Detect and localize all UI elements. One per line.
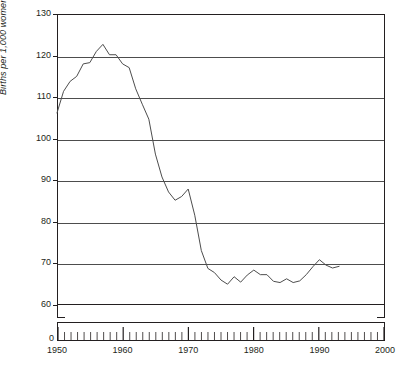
y-axis-tick-label: 60 [41, 300, 51, 309]
x-axis-tick-band [57, 322, 385, 341]
x-axis-tick-label: 1950 [41, 345, 73, 355]
y-axis-tick-label: 70 [41, 258, 51, 267]
y-axis-tick-label: 110 [37, 92, 51, 101]
y-axis-break [57, 305, 385, 319]
x-axis-tick-label: 1990 [303, 345, 335, 355]
x-axis-tick-label: 1980 [238, 345, 270, 355]
series-line-births-per-1000-women [57, 14, 385, 305]
y-axis-break-right-stub [377, 305, 385, 318]
x-axis-tick-label: 1960 [107, 345, 139, 355]
y-axis-tick-label: 120 [36, 51, 51, 60]
y-axis-tick-label: 90 [41, 175, 51, 184]
y-axis-zero-label: 0 [40, 333, 54, 343]
y-axis-break-left-stub [57, 305, 65, 318]
y-axis-title: Births per 1,000 women aged 15–44 [0, 0, 8, 95]
y-axis-tick-label: 130 [36, 9, 51, 18]
x-axis-tick-label: 1970 [172, 345, 204, 355]
fertility-rate-line-chart: Births per 1,000 women aged 15–44 130120… [0, 0, 408, 368]
x-axis-minor-ticks [58, 323, 384, 340]
y-axis-tick-label: 80 [41, 217, 51, 226]
y-axis-tick-label: 100 [36, 134, 51, 143]
x-axis-tick-label: 2000 [369, 345, 401, 355]
